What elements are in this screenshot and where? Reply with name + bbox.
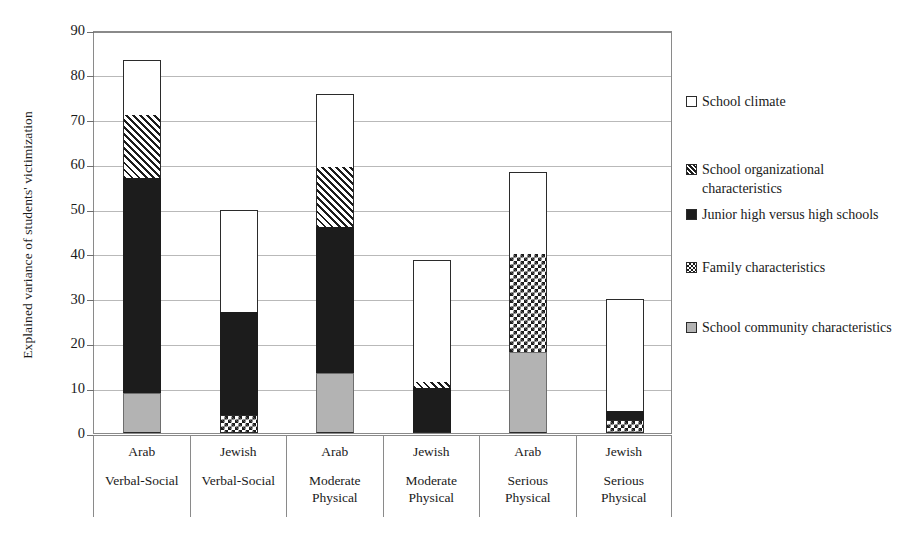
- legend-label: School climate: [702, 92, 786, 111]
- y-axis-tick: [87, 345, 94, 346]
- bar-segment[interactable]: [413, 381, 451, 389]
- stacked-bar[interactable]: [606, 30, 644, 433]
- x-axis-label-type: Verbal-Social: [94, 472, 190, 489]
- bar-segment[interactable]: [123, 177, 161, 393]
- x-axis-label-group: Jewish: [384, 444, 480, 460]
- stacked-bar[interactable]: [123, 30, 161, 433]
- bar-segment[interactable]: [316, 166, 354, 227]
- legend-label: Family characteristics: [702, 258, 825, 277]
- x-axis-label-type: ModeratePhysical: [384, 472, 480, 506]
- y-axis-tick-label: 80: [45, 68, 85, 83]
- x-axis-category: ArabVerbal-Social: [93, 435, 190, 517]
- bar-segment[interactable]: [316, 226, 354, 373]
- y-axis-tick-label: 10: [45, 381, 85, 396]
- y-axis-tick-label: 40: [45, 247, 85, 262]
- legend-label: School organizational characteristics: [702, 160, 896, 198]
- x-axis-label-group: Arab: [480, 444, 576, 460]
- legend-swatch-check-icon: [686, 262, 697, 273]
- bar-segment[interactable]: [509, 253, 547, 353]
- bar-segment[interactable]: [123, 393, 161, 433]
- x-axis-category: ArabSeriousPhysical: [479, 435, 576, 517]
- stacked-bar[interactable]: [509, 30, 547, 433]
- bar-group: [384, 30, 481, 433]
- bar-group: [577, 30, 674, 433]
- stacked-bar[interactable]: [316, 30, 354, 433]
- bar-segment[interactable]: [220, 311, 258, 415]
- bar-segment[interactable]: [316, 373, 354, 433]
- y-axis-tick: [87, 166, 94, 167]
- stacked-bar[interactable]: [220, 30, 258, 433]
- legend-item[interactable]: School organizational characteristics: [686, 160, 896, 198]
- x-axis-label-group: Arab: [94, 444, 190, 460]
- bar-segment[interactable]: [509, 352, 547, 433]
- y-axis-tick: [87, 300, 94, 301]
- y-axis-tick: [87, 76, 94, 77]
- bar-group: [191, 30, 288, 433]
- x-axis-category: JewishModeratePhysical: [383, 435, 480, 517]
- legend-label: School community characteristics: [702, 318, 892, 337]
- bar-segment[interactable]: [123, 60, 161, 115]
- bar-segment[interactable]: [123, 114, 161, 178]
- y-axis-tick-label: 70: [45, 113, 85, 128]
- x-axis-category: JewishVerbal-Social: [190, 435, 287, 517]
- y-axis-tick-label: 20: [45, 336, 85, 351]
- x-axis-label-table: ArabVerbal-SocialJewishVerbal-SocialArab…: [93, 435, 672, 517]
- x-axis-label-type: SeriousPhysical: [577, 472, 672, 506]
- bar-segment[interactable]: [606, 420, 644, 433]
- x-axis-label-group: Arab: [287, 444, 383, 460]
- y-axis-tick: [87, 32, 94, 33]
- stacked-bar[interactable]: [413, 30, 451, 433]
- x-axis-label-group: Jewish: [577, 444, 672, 460]
- bar-group: [287, 30, 384, 433]
- bar-segment[interactable]: [413, 388, 451, 433]
- y-axis-tick: [87, 211, 94, 212]
- x-axis-label-type: Verbal-Social: [191, 472, 287, 489]
- y-axis-tick: [87, 121, 94, 122]
- legend-swatch-white-icon: [686, 96, 697, 107]
- plot-area: [93, 31, 672, 434]
- y-axis-tick-label: 50: [45, 202, 85, 217]
- bar-segment[interactable]: [220, 415, 258, 433]
- y-axis-tick-label: 0: [45, 426, 85, 441]
- legend-swatch-gray-icon: [686, 322, 697, 333]
- bar-segment[interactable]: [606, 299, 644, 411]
- bar-segment[interactable]: [316, 94, 354, 167]
- stacked-bar-chart: Explained variance of students' victimiz…: [0, 0, 903, 535]
- x-axis-label-group: Jewish: [191, 444, 287, 460]
- y-axis-tick: [87, 390, 94, 391]
- x-axis-label-type: SeriousPhysical: [480, 472, 576, 506]
- legend-item[interactable]: Family characteristics: [686, 258, 896, 277]
- y-axis-tick-label: 60: [45, 157, 85, 172]
- y-axis-tick-label: 30: [45, 292, 85, 307]
- bar-group: [480, 30, 577, 433]
- legend-swatch-hatch-icon: [686, 164, 697, 175]
- x-axis-category: ArabModeratePhysical: [286, 435, 383, 517]
- y-axis-tick: [87, 255, 94, 256]
- legend-item[interactable]: School community characteristics: [686, 318, 896, 337]
- legend-label: Junior high versus high schools: [702, 205, 879, 224]
- legend-item[interactable]: School climate: [686, 92, 896, 111]
- bar-segment[interactable]: [606, 410, 644, 420]
- y-axis-title: Explained variance of students' victimiz…: [20, 25, 36, 445]
- legend-item[interactable]: Junior high versus high schools: [686, 205, 896, 224]
- bar-segment[interactable]: [509, 172, 547, 254]
- legend-swatch-black-icon: [686, 209, 697, 220]
- x-axis-category: JewishSeriousPhysical: [576, 435, 673, 517]
- y-axis-tick-label: 90: [45, 23, 85, 38]
- bar-group: [94, 30, 191, 433]
- bar-segment[interactable]: [413, 260, 451, 382]
- x-axis-label-type: ModeratePhysical: [287, 472, 383, 506]
- bar-segment[interactable]: [220, 210, 258, 312]
